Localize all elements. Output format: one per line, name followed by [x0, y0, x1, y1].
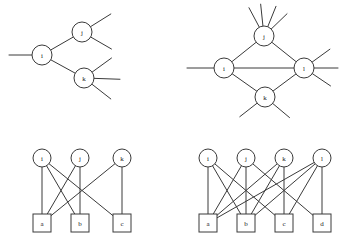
stub-edge-j-2: [261, 4, 263, 26]
edge-j-l: [272, 42, 296, 62]
node-c[interactable]: c: [275, 214, 293, 232]
node-i[interactable]: i: [33, 149, 51, 167]
node-j[interactable]: j: [71, 149, 89, 167]
node-layer: ijkl: [214, 26, 314, 107]
node-l[interactable]: l: [313, 149, 331, 167]
node-shape-circle: [72, 22, 92, 42]
node-shape-circle: [237, 149, 255, 167]
graph-bipartite-graph-4x4: ijklabcd: [176, 125, 352, 249]
panel-bipartite-graph-4x4: ijklabcd: [176, 125, 352, 249]
node-shape-square: [313, 214, 331, 232]
stub-edge-k-3: [92, 58, 111, 72]
node-shape-circle: [313, 149, 331, 167]
node-k[interactable]: k: [74, 68, 94, 88]
node-l[interactable]: l: [294, 58, 314, 78]
stub-edge-k-8: [240, 103, 257, 117]
graph-diamond-graph-ijkl: ijkl: [176, 0, 352, 125]
edge-i-k: [232, 74, 257, 91]
edge-l-a: [217, 162, 314, 217]
node-shape-circle: [214, 58, 234, 78]
node-c[interactable]: c: [113, 214, 131, 232]
node-shape-square: [275, 214, 293, 232]
edge-l-b: [255, 164, 315, 215]
node-a[interactable]: a: [33, 214, 51, 232]
node-j[interactable]: j: [72, 22, 92, 42]
edge-i-j: [232, 42, 256, 62]
node-shape-circle: [199, 149, 217, 167]
node-shape-circle: [71, 149, 89, 167]
node-shape-circle: [33, 149, 51, 167]
node-shape-square: [71, 214, 89, 232]
panel-tree-graph-ijk: ijk: [0, 0, 176, 125]
stub-edge-j-2: [91, 37, 112, 49]
node-shape-square: [33, 214, 51, 232]
graph-tree-graph-ijk: ijk: [0, 0, 176, 125]
node-shape-circle: [275, 149, 293, 167]
stub-edge-k-4: [94, 78, 120, 79]
node-shape-circle: [255, 87, 275, 107]
edge-layer: [42, 164, 122, 216]
stub-edge-j-3: [268, 6, 276, 26]
edge-layer: [208, 162, 322, 217]
node-b[interactable]: b: [237, 214, 255, 232]
edge-i-c: [49, 164, 113, 216]
node-layer: ijk: [32, 22, 94, 88]
stub-edge-l-5: [312, 49, 330, 62]
edge-i-j: [51, 37, 74, 50]
node-shape-circle: [74, 68, 94, 88]
stub-edge-j-1: [90, 14, 110, 27]
stub-edge-j-4: [271, 14, 287, 29]
node-i[interactable]: i: [32, 45, 52, 65]
node-shape-square: [199, 214, 217, 232]
node-b[interactable]: b: [71, 214, 89, 232]
node-shape-circle: [113, 149, 131, 167]
figure-canvas: ijkijklijkabcijklabcd: [0, 0, 352, 249]
node-shape-circle: [294, 58, 314, 78]
stub-edge-l-7: [312, 74, 330, 86]
node-shape-square: [237, 214, 255, 232]
panel-diamond-graph-ijkl: ijkl: [176, 0, 352, 125]
node-a[interactable]: a: [199, 214, 217, 232]
stub-edge-k-5: [92, 84, 111, 99]
graph-bipartite-graph-3x3: ijkabc: [0, 125, 176, 249]
node-k[interactable]: k: [113, 149, 131, 167]
node-j[interactable]: j: [237, 149, 255, 167]
node-d[interactable]: d: [313, 214, 331, 232]
node-k[interactable]: k: [255, 87, 275, 107]
panel-bipartite-graph-3x3: ijkabc: [0, 125, 176, 249]
edge-k-l: [273, 74, 296, 91]
node-i[interactable]: i: [214, 58, 234, 78]
node-shape-circle: [32, 45, 52, 65]
stub-edge-j-1: [249, 8, 259, 27]
edge-i-k: [51, 60, 75, 73]
node-shape-circle: [254, 26, 274, 46]
node-i[interactable]: i: [199, 149, 217, 167]
node-j[interactable]: j: [254, 26, 274, 46]
edge-layer: [9, 14, 120, 99]
stub-edge-k-9: [273, 103, 290, 117]
node-shape-square: [113, 214, 131, 232]
node-k[interactable]: k: [275, 149, 293, 167]
